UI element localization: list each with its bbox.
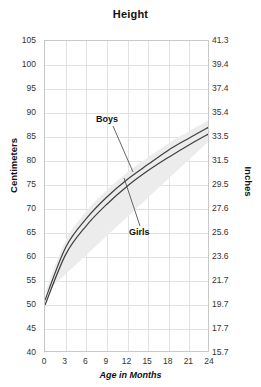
y-tick-label-right: 29.5	[212, 180, 240, 189]
x-tick-label: 18	[160, 356, 176, 366]
y-tick-label-right: 39.4	[212, 60, 240, 69]
y-tick-label-left: 65	[0, 228, 36, 237]
chart-title: Height	[0, 8, 261, 20]
x-axis-label: Age in Months	[0, 370, 261, 380]
y-tick-label-right: 41.3	[212, 36, 240, 45]
y-tick-label-right: 23.6	[212, 252, 240, 261]
x-tick-label: 6	[77, 356, 93, 366]
x-tick-label: 21	[180, 356, 196, 366]
x-tick-label: 3	[57, 356, 73, 366]
series-annotation-girls: Girls	[129, 227, 150, 237]
y-tick-label-left: 75	[0, 180, 36, 189]
y-axis-label-centimeters: Centimeters	[8, 116, 19, 216]
y-tick-label-right: 25.6	[212, 228, 240, 237]
y-tick-label-left: 95	[0, 84, 36, 93]
y-tick-label-right: 27.6	[212, 204, 240, 213]
x-tick-label: 15	[139, 356, 155, 366]
series-annotation-boys: Boys	[96, 114, 118, 124]
y-tick-label-left: 105	[0, 36, 36, 45]
x-tick-label: 24	[201, 356, 217, 366]
y-tick-label-left: 90	[0, 108, 36, 117]
y-tick-label-right: 21.7	[212, 276, 240, 285]
y-tick-label-right: 35.4	[212, 108, 240, 117]
y-tick-label-left: 45	[0, 324, 36, 333]
y-tick-label-right: 31.5	[212, 156, 240, 165]
y-tick-label-right: 37.4	[212, 84, 240, 93]
x-tick-label: 12	[119, 356, 135, 366]
data-curves	[45, 41, 209, 352]
reference-band	[45, 119, 209, 293]
y-tick-label-left: 60	[0, 252, 36, 261]
y-tick-label-right: 17.7	[212, 324, 240, 333]
x-tick-label: 0	[36, 356, 52, 366]
y-tick-label-left: 100	[0, 60, 36, 69]
y-tick-label-left: 80	[0, 156, 36, 165]
y-tick-label-left: 50	[0, 300, 36, 309]
growth-chart: Height Centimeters Inches Age in Months …	[0, 0, 261, 387]
y-tick-label-left: 40	[0, 348, 36, 357]
y-tick-label-right: 33.5	[212, 132, 240, 141]
y-tick-label-left: 55	[0, 276, 36, 285]
y-tick-label-left: 70	[0, 204, 36, 213]
y-axis-label-inches: Inches	[243, 132, 254, 232]
y-tick-label-right: 19.7	[212, 300, 240, 309]
plot-area	[44, 40, 209, 352]
y-tick-label-left: 85	[0, 132, 36, 141]
x-tick-label: 9	[98, 356, 114, 366]
